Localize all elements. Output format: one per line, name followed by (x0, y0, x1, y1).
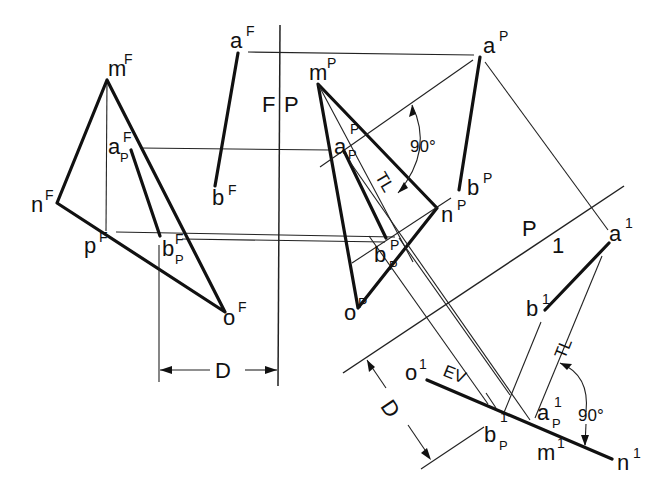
label-nP: n (441, 202, 453, 227)
label-bpP-sub: P (389, 258, 398, 273)
projector-aP-a1 (485, 62, 608, 230)
label-apF-sub: P (120, 150, 129, 165)
label-bP: b (467, 175, 479, 200)
label-m1-sup: 1 (557, 435, 565, 451)
label-m1: m (537, 440, 555, 465)
true-length-line-aux1 (535, 256, 602, 418)
label-bP-sup: P (483, 170, 492, 186)
label-bp1-sup: 1 (500, 409, 508, 425)
line-ab-front (215, 53, 238, 186)
label-aF-sup: F (246, 23, 255, 39)
label-aP: a (483, 33, 496, 58)
label-bp1-sub: P (499, 438, 508, 453)
fold-label-f: F (262, 92, 275, 117)
label-aF: a (230, 28, 243, 53)
label-bF: b (212, 185, 224, 210)
fold-label-p2: P (522, 216, 537, 241)
label-pF: p (84, 233, 96, 258)
line-ab-profile (459, 57, 480, 190)
label-n1-sup: 1 (633, 445, 641, 461)
label-apP-sup: P (350, 121, 359, 137)
label-ap1-sup: 1 (554, 394, 562, 410)
label-b1: b (526, 296, 538, 321)
projector-apP-ap1 (350, 162, 530, 420)
label-o1: o (405, 360, 417, 385)
plane-mno-front (57, 80, 225, 312)
label-oP: o (344, 300, 356, 325)
label-o1-sup: 1 (419, 356, 427, 372)
label-bpF-sub: P (175, 252, 184, 267)
label-bpF: b (162, 236, 174, 261)
label-mP: m (309, 60, 327, 85)
projector-mF-pF (106, 80, 107, 231)
angle-label-top: 90° (410, 137, 436, 156)
label-nF: n (31, 192, 43, 217)
edge-view-label: EV (441, 361, 470, 387)
projector-b1-bp1 (503, 322, 541, 415)
label-mP-sup: P (327, 55, 336, 71)
label-mF-sup: F (124, 51, 133, 67)
label-n1: n (617, 450, 629, 475)
label-nF-sup: F (45, 187, 54, 203)
label-oF-sup: F (238, 299, 247, 315)
dimension-d-bottom-label: D (376, 395, 406, 422)
label-nP-sup: P (457, 197, 466, 213)
label-oP-sup: P (358, 295, 367, 311)
arrowhead-right (265, 366, 277, 374)
arrowhead-angle-bottom-b (581, 435, 589, 446)
fold-line-p-1 (343, 186, 624, 373)
label-apP-sub: P (348, 147, 357, 162)
label-a1-sup: 1 (625, 215, 633, 231)
label-apF-sup: F (123, 129, 132, 145)
label-bp1: b (484, 422, 496, 447)
angle-label-bottom: 90° (578, 406, 604, 425)
label-bF-sup: F (228, 182, 237, 198)
line-apbp-front (131, 150, 160, 236)
projector-bpP-bp1 (369, 236, 488, 404)
fold-label-p: P (284, 92, 299, 117)
label-aP-sup: P (499, 28, 508, 44)
arrowhead-angle-top-b (398, 182, 408, 193)
arrowhead-d-bottom-b (421, 448, 431, 460)
extension-line-d2 (421, 427, 484, 469)
label-b1-sup: 1 (542, 291, 550, 307)
label-bpF-sup: F (175, 231, 184, 247)
label-a1: a (609, 221, 622, 246)
label-pF-sup: F (99, 229, 108, 245)
angle-arc-bottom (560, 363, 586, 412)
label-ap1: a (537, 400, 550, 425)
descriptive-geometry-drawing: F P D m F n F p F o F a F P b F P a F b … (0, 0, 656, 495)
arrowhead-left (160, 366, 172, 374)
projector-ap (140, 148, 330, 150)
true-length-label-bottom: TL (551, 336, 576, 362)
fold-line-f-p (278, 25, 280, 386)
projector-a (248, 52, 474, 55)
label-ap1-sub: P (552, 416, 561, 431)
dimension-d-bottom-b (408, 425, 427, 453)
label-apP: a (334, 134, 347, 159)
label-bpP-sup: P (390, 237, 399, 253)
true-length-line-profile (318, 84, 413, 262)
line-apbp-profile (344, 151, 386, 238)
dimension-d-left-label: D (215, 358, 231, 383)
label-bpP: b (374, 242, 386, 267)
label-oF: o (223, 305, 235, 330)
fold-label-1: 1 (552, 233, 564, 258)
projector-bp (182, 239, 385, 242)
